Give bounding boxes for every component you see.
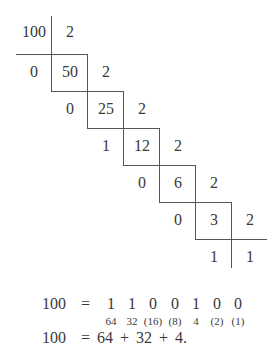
bit: 0 (233, 295, 243, 313)
remainder: 1 (88, 137, 124, 155)
quotient: 6 (160, 174, 196, 192)
remainder: 0 (16, 63, 52, 81)
final-quotient: 1 (232, 248, 268, 266)
divisor: 2 (52, 23, 88, 41)
quotient: 25 (88, 100, 124, 118)
divider-line (159, 202, 232, 203)
bit: 1 (106, 295, 116, 313)
quotient: 12 (124, 137, 160, 155)
remainder: 1 (196, 248, 232, 266)
divisor: 2 (88, 63, 124, 81)
dividend-100: 100 (16, 23, 52, 41)
bit: 1 (127, 295, 137, 313)
weight: (1) (223, 315, 253, 327)
quotient: 50 (52, 63, 88, 81)
divisor: 2 (160, 137, 196, 155)
result-lhs: 100 (42, 295, 66, 313)
result-lhs: 100 (42, 329, 66, 347)
divisor: 2 (196, 174, 232, 192)
quotient: 3 (196, 211, 232, 229)
remainder: 0 (52, 100, 88, 118)
divider-line (16, 54, 88, 55)
divider-line (87, 128, 160, 129)
sum-expression: 64 + 32 + 4. (97, 329, 187, 347)
divider-line (123, 165, 196, 166)
divider-line (231, 202, 232, 268)
equals-sign: = (81, 295, 90, 313)
divider-line (51, 91, 124, 92)
remainder: 0 (124, 174, 160, 192)
divisor: 2 (232, 211, 268, 229)
remainder: 0 (160, 211, 196, 229)
equals-sign: = (81, 329, 90, 347)
bit: 0 (148, 295, 158, 313)
bit: 0 (170, 295, 180, 313)
divider-line (195, 239, 267, 240)
divider-line (51, 16, 52, 55)
divisor: 2 (124, 100, 160, 118)
bit: 0 (212, 295, 222, 313)
bit: 1 (191, 295, 201, 313)
divider-line (51, 54, 52, 91)
